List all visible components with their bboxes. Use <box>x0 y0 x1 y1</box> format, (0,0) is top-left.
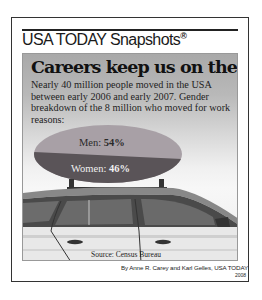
subtext: Nearly 40 million people moved in the US… <box>31 79 236 125</box>
men-value: 54% <box>104 137 125 148</box>
car-illustration <box>23 179 238 261</box>
ellipse-chart-svg <box>33 124 183 184</box>
gender-ellipse-chart <box>33 124 183 184</box>
byline-year: 2008 <box>235 272 246 278</box>
graphic-panel: Careers keep us on the move Nearly 40 mi… <box>22 53 238 261</box>
byline-credit: By Anne R. Carey and Karl Gelles, USA TO… <box>121 264 248 271</box>
brand-title: USA TODAY Snapshots® <box>22 31 186 49</box>
women-value: 46% <box>109 163 130 174</box>
registered-mark: ® <box>180 31 186 41</box>
brand-text: USA TODAY Snapshots <box>22 31 180 48</box>
door-handle-front <box>67 240 83 244</box>
source-note: Source: Census Bureau <box>91 250 161 259</box>
headline: Careers keep us on the move <box>31 57 238 77</box>
door-handle-rear <box>155 240 171 244</box>
rack-post-right <box>159 179 164 188</box>
women-label: Women: 46% <box>71 163 130 174</box>
men-label: Men: 54% <box>79 137 125 148</box>
rack-post-left <box>69 179 74 188</box>
